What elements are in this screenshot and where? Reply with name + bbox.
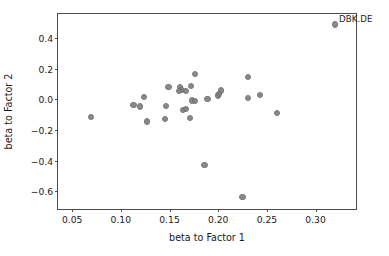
y-axis-label: beta to Factor 2 (2, 13, 16, 210)
scatter-point (137, 103, 143, 109)
scatter-point (187, 115, 193, 121)
scatter-point (245, 95, 251, 101)
scatter-point (188, 83, 194, 89)
scatter-point (162, 116, 168, 122)
scatter-point (257, 92, 263, 98)
scatter-point (192, 71, 198, 77)
x-axis-tick-label: 0.10 (111, 214, 131, 225)
y-axis-tick (55, 161, 58, 162)
x-axis-tick-label: 0.25 (257, 214, 277, 225)
x-axis-label: beta to Factor 1 (57, 232, 357, 243)
y-axis-tick (55, 99, 58, 100)
scatter-point (176, 88, 182, 94)
x-axis-tick (170, 209, 171, 212)
data-points-layer: DBK.DE (58, 14, 356, 209)
scatter-point (201, 162, 207, 168)
scatter-point (165, 84, 171, 90)
scatter-point (239, 194, 245, 200)
x-axis-tick-label: 0.05 (62, 214, 82, 225)
y-axis-label-text: beta to Factor 2 (4, 74, 15, 150)
scatter-point (183, 106, 189, 112)
scatter-point-label: DBK.DE (339, 14, 373, 24)
scatter-point (130, 102, 136, 108)
y-axis-tick (55, 69, 58, 70)
x-axis-tick-label: 0.15 (159, 214, 179, 225)
y-axis-tick-label: 0.4 (38, 32, 53, 43)
scatter-chart-figure: DBK.DE 0.050.100.150.200.250.300.40.20.0… (0, 0, 389, 256)
x-axis-tick-label: 0.20 (208, 214, 228, 225)
scatter-point (204, 96, 210, 102)
plot-area: DBK.DE 0.050.100.150.200.250.300.40.20.0… (57, 13, 357, 210)
x-axis-tick (72, 209, 73, 212)
scatter-point (245, 74, 251, 80)
scatter-point (141, 94, 147, 100)
scatter-point (183, 88, 189, 94)
x-axis-tick (267, 209, 268, 212)
scatter-point (192, 98, 198, 104)
y-axis-tick-label: −0.4 (31, 155, 53, 166)
scatter-point (332, 21, 338, 27)
y-axis-tick-label: −0.6 (31, 186, 53, 197)
y-axis-tick-label: 0.2 (38, 63, 53, 74)
x-axis-tick (316, 209, 317, 212)
scatter-point (88, 114, 94, 120)
y-axis-tick (55, 130, 58, 131)
scatter-point (274, 110, 280, 116)
scatter-point (163, 103, 169, 109)
x-axis-tick (218, 209, 219, 212)
x-axis-tick (121, 209, 122, 212)
scatter-point (144, 118, 150, 124)
y-axis-tick (55, 191, 58, 192)
x-axis-tick-label: 0.30 (305, 214, 325, 225)
y-axis-tick-label: −0.2 (31, 124, 53, 135)
y-axis-tick (55, 38, 58, 39)
y-axis-tick-label: 0.0 (38, 94, 53, 105)
scatter-point (216, 91, 222, 97)
